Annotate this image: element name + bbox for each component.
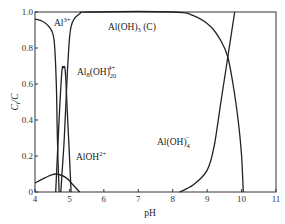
y-tick-label: 0.4 — [22, 115, 34, 125]
plot-frame — [35, 12, 276, 192]
x-axis-label: pH — [144, 208, 156, 218]
x-tick-label: 7 — [136, 194, 141, 204]
speciation-chart: 00.20.40.60.81.0 4567891011 pH Ci/C Al3+… — [0, 0, 285, 224]
y-axis-label: Ci/C — [10, 93, 21, 111]
curve-al3- — [35, 19, 59, 192]
label-aloh2: AlOH2+ — [76, 150, 106, 162]
x-tick-label: 11 — [272, 194, 281, 204]
label-al3: Al3+ — [54, 16, 71, 28]
x-tick-label: 5 — [67, 194, 72, 204]
svg-text:Ci/C: Ci/C — [10, 93, 21, 111]
y-axis-ticks: 00.20.40.60.81.0 — [22, 7, 38, 197]
x-tick-label: 6 — [102, 194, 107, 204]
curve-al-oh-3-c- — [61, 12, 244, 192]
y-tick-label: 0.6 — [22, 79, 34, 89]
x-tick-label: 4 — [33, 194, 38, 204]
x-tick-label: 8 — [170, 194, 175, 204]
y-tick-label: 1.0 — [22, 7, 34, 17]
curves — [35, 12, 243, 192]
curve-aloh2- — [35, 174, 80, 192]
x-tick-label: 9 — [205, 194, 210, 204]
curve-al-oh-4- — [180, 12, 235, 192]
label-aloh4: Al(OH)4− — [157, 134, 191, 149]
label-al8oh20: Al8(OH)204+ — [77, 64, 116, 79]
y-tick-label: 0.2 — [22, 151, 33, 161]
label-aloh3: Al(OH)3 (C) — [108, 22, 156, 33]
y-tick-label: 0.8 — [22, 43, 34, 53]
x-tick-label: 10 — [237, 194, 247, 204]
